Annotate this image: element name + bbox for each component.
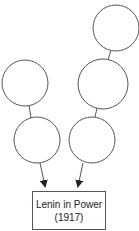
target-label-line1: Lenin in Power — [36, 198, 102, 211]
connector-right-upper — [108, 50, 111, 60]
connector-left — [29, 105, 31, 118]
arrow-left-to-target — [40, 163, 45, 186]
node-left-top — [2, 60, 48, 106]
node-right-bottom — [69, 117, 115, 163]
arrow-right-to-target — [78, 163, 83, 186]
target-label-line2: (1917) — [55, 211, 84, 224]
connector-right-lower — [95, 108, 97, 117]
node-right-middle — [78, 59, 128, 109]
target-box-lenin-in-power: Lenin in Power (1917) — [32, 191, 106, 230]
node-left-bottom — [14, 117, 60, 163]
node-right-top — [93, 5, 139, 51]
